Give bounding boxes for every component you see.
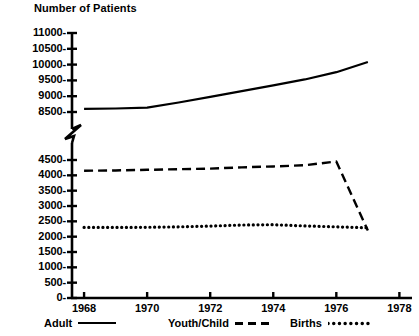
y-tick-label: 9500- [14, 73, 66, 85]
y-tick-label: 10000- [14, 58, 66, 70]
legend-swatch-dotted [328, 318, 370, 328]
y-tick-label: 2000- [14, 230, 66, 242]
legend-swatch-dashed [235, 318, 273, 328]
y-tick-label: 9000- [14, 89, 66, 101]
y-tick-label: 1000- [14, 260, 66, 272]
chart-legend: AdultYouth/ChildBirths [0, 314, 419, 336]
y-tick-label: 4000- [14, 168, 66, 180]
legend-entry-births[interactable]: Births [290, 314, 370, 332]
y-tick-label: 3500- [14, 184, 66, 196]
x-tick-label: 1970 [125, 302, 169, 314]
series-line-youth-child [84, 162, 368, 231]
chart-container: Number of Patients 0-500-1000-1500-2000-… [0, 0, 419, 336]
legend-label: Adult [44, 317, 72, 329]
x-tick-label: 1976 [314, 302, 358, 314]
axis-lines [71, 33, 412, 298]
y-tick-label: 500- [14, 276, 66, 288]
y-tick-label: 1500- [14, 245, 66, 257]
data-series-layer [84, 62, 368, 230]
y-tick-label: 3000- [14, 199, 66, 211]
axis-break-zigzag [65, 125, 81, 143]
x-tick-label: 1972 [188, 302, 232, 314]
y-tick-label: 0- [14, 291, 66, 303]
series-line-births [84, 225, 368, 228]
y-tick-label: 2500- [14, 214, 66, 226]
y-tick-label: 4500- [14, 153, 66, 165]
x-tick-label: 1968 [62, 302, 106, 314]
y-tick-label: 10500- [14, 42, 66, 54]
y-tick-label: 11000- [14, 26, 66, 38]
x-tick-label: 1974 [251, 302, 295, 314]
legend-entry-adult[interactable]: Adult [44, 314, 116, 332]
series-line-adult [84, 62, 368, 109]
x-tick-label: 1978 [377, 302, 419, 314]
legend-label: Births [290, 317, 322, 329]
legend-entry-youth-child[interactable]: Youth/Child [168, 314, 273, 332]
legend-label: Youth/Child [168, 317, 229, 329]
y-tick-label: 8500- [14, 105, 66, 117]
legend-swatch-solid [78, 318, 116, 328]
